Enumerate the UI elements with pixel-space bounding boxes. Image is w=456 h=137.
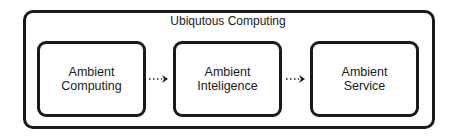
dotted-arrow-icon bbox=[285, 74, 307, 84]
node-label-line1: Ambient bbox=[61, 65, 121, 79]
container-title: Ubiqutous Computing bbox=[0, 14, 456, 28]
node-ambient-service: Ambient Service bbox=[310, 41, 419, 117]
node-ambient-computing: Ambient Computing bbox=[37, 41, 146, 117]
node-label-line1: Ambient bbox=[197, 65, 257, 79]
node-label-line1: Ambient bbox=[342, 65, 388, 79]
dotted-arrow-icon bbox=[148, 74, 170, 84]
node-label-line2: Computing bbox=[61, 79, 121, 93]
node-label-line2: Service bbox=[342, 79, 388, 93]
node-ambient-inteligence: Ambient Inteligence bbox=[173, 41, 282, 117]
node-label-line2: Inteligence bbox=[197, 79, 257, 93]
